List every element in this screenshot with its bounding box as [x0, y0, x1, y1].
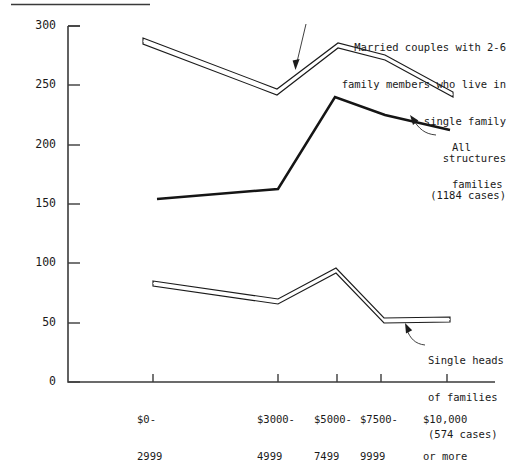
annotation-married-line1: Married couples with 2-6 — [200, 41, 506, 53]
x-tick-label-0-line1: $0- — [137, 413, 162, 425]
y-tick-label-150: 150 — [16, 197, 56, 211]
annotation-all-families-line1: All — [452, 141, 503, 153]
x-tick-label-0-line2: 2999 — [137, 450, 162, 462]
x-tick-label-1-line1: $3000- — [257, 413, 295, 425]
x-tick-label-2-line1: $5000- — [314, 413, 352, 425]
x-tick-label-3: $7500- 9999 — [360, 388, 398, 464]
y-tick-label-50: 50 — [16, 316, 56, 330]
x-tick-label-1: $3000- 4999 — [257, 388, 295, 464]
annotation-all-families-line2: families — [452, 178, 503, 190]
x-tick-label-3-line1: $7500- — [360, 413, 398, 425]
x-axis-ticks — [153, 374, 447, 382]
y-tick-label-0: 0 — [16, 375, 56, 389]
annotation-all-families: All families — [452, 116, 503, 215]
leader-single-heads — [405, 323, 425, 345]
x-tick-label-2: $5000- 7499 — [314, 388, 352, 464]
x-tick-label-0: $0- 2999 — [137, 388, 162, 464]
series-single-heads — [153, 268, 450, 323]
annotation-single-heads-line3: (574 cases) — [428, 428, 504, 440]
y-tick-label-250: 250 — [16, 78, 56, 92]
annotation-married-line2: family members who live in — [200, 78, 506, 90]
y-tick-label-300: 300 — [16, 19, 56, 33]
annotation-single-heads-line2: of families — [428, 391, 504, 403]
x-tick-label-1-line2: 4999 — [257, 450, 295, 462]
y-tick-label-100: 100 — [16, 256, 56, 270]
x-tick-label-3-line2: 9999 — [360, 450, 398, 462]
y-tick-label-200: 200 — [16, 138, 56, 152]
annotation-single-heads: Single heads of families (574 cases) — [428, 329, 504, 464]
annotation-single-heads-line1: Single heads — [428, 354, 504, 366]
x-tick-label-2-line2: 7499 — [314, 450, 352, 462]
y-axis-ticks — [68, 26, 80, 382]
